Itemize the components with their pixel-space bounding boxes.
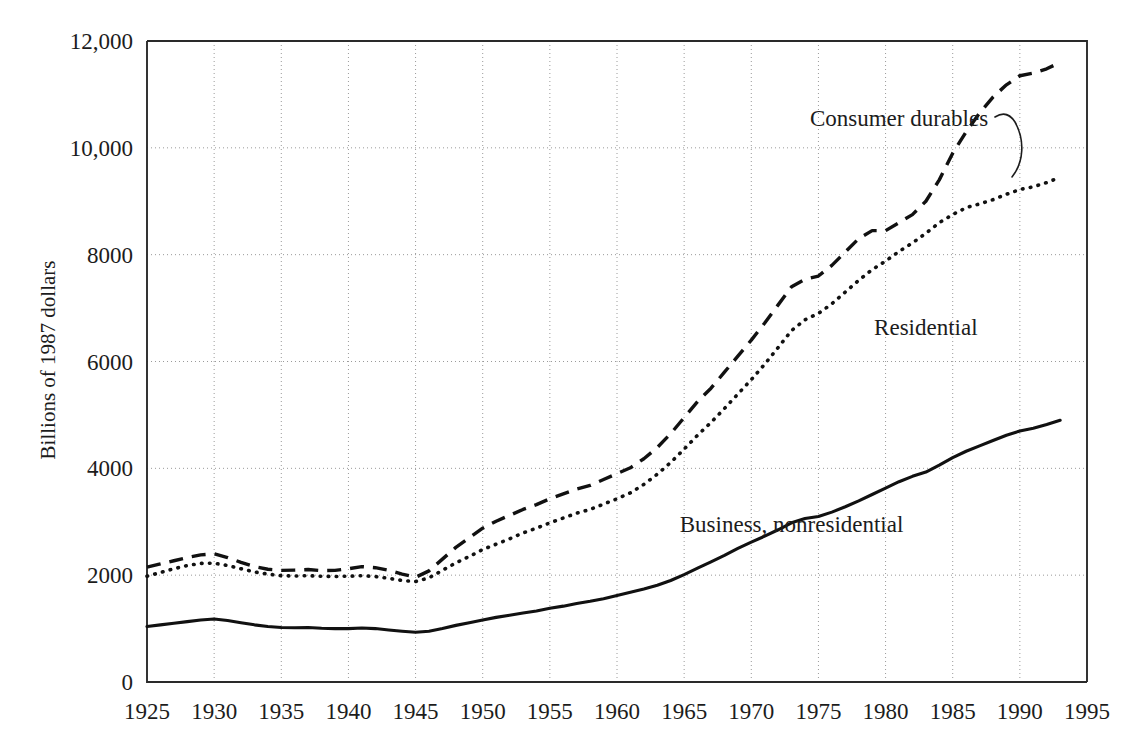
- y-tick-label-8000: 8000: [87, 243, 133, 268]
- gridlines-group: [147, 41, 1087, 682]
- x-tick-label-1930: 1930: [191, 699, 237, 724]
- x-tick-label-1955: 1955: [527, 699, 573, 724]
- line-chart: 0200040006000800010,00012,000 1925193019…: [0, 0, 1147, 754]
- series-line-residential: [147, 177, 1060, 581]
- x-tick-label-1985: 1985: [930, 699, 976, 724]
- x-tick-label-1995: 1995: [1064, 699, 1110, 724]
- x-tick-label-1980: 1980: [863, 699, 909, 724]
- x-tick-label-1940: 1940: [325, 699, 371, 724]
- y-tick-label-2000: 2000: [87, 563, 133, 588]
- y-tick-label-4000: 4000: [87, 456, 133, 481]
- series-label-business-nonresidential: Business, nonresidential: [680, 512, 904, 537]
- y-tick-label-0: 0: [122, 670, 134, 695]
- x-tick-label-1970: 1970: [728, 699, 774, 724]
- x-axis-ticks: 1925193019351940194519501955196019651970…: [124, 699, 1110, 724]
- series-annotations: Consumer durablesResidentialBusiness, no…: [680, 106, 1022, 537]
- consumer-durables-leader-line: [995, 114, 1022, 177]
- x-tick-label-1965: 1965: [661, 699, 707, 724]
- x-tick-label-1925: 1925: [124, 699, 170, 724]
- x-tick-label-1990: 1990: [997, 699, 1043, 724]
- x-tick-label-1945: 1945: [393, 699, 439, 724]
- series-label-consumer-durables: Consumer durables: [810, 106, 988, 131]
- x-tick-label-1975: 1975: [795, 699, 841, 724]
- y-tick-label-10000: 10,000: [70, 136, 133, 161]
- series-line-business-nonresidential: [147, 420, 1060, 632]
- y-tick-label-12000: 12,000: [70, 29, 133, 54]
- x-tick-label-1935: 1935: [258, 699, 304, 724]
- series-label-residential: Residential: [874, 315, 977, 340]
- chart-figure: 0200040006000800010,00012,000 1925193019…: [0, 0, 1147, 754]
- y-axis-ticks: 0200040006000800010,00012,000: [70, 29, 133, 695]
- y-tick-label-6000: 6000: [87, 350, 133, 375]
- x-tick-label-1950: 1950: [460, 699, 506, 724]
- x-tick-label-1960: 1960: [594, 699, 640, 724]
- y-axis-label: Billions of 1987 dollars: [36, 261, 60, 460]
